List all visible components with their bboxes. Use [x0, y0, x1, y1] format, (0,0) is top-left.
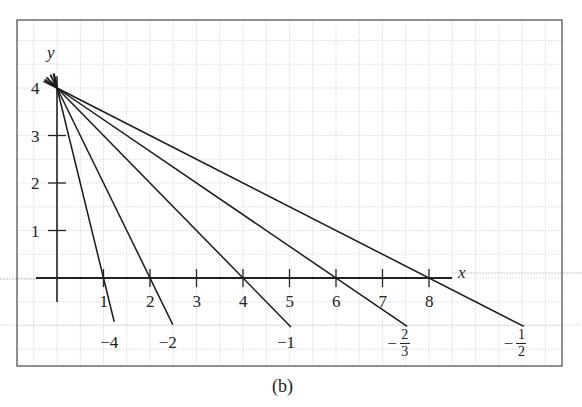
figure-caption: (b) [272, 376, 293, 397]
y-axis-label: y [47, 44, 55, 61]
y-tick-label: 2 [31, 175, 40, 192]
slope-label: −12 [504, 328, 527, 359]
denominator: 2 [518, 345, 525, 359]
line-family [44, 73, 524, 326]
minus-sign: − [387, 334, 397, 354]
y-tick-label: 3 [31, 128, 40, 145]
slope-label: −23 [387, 328, 410, 359]
slope-label: −4 [100, 334, 118, 351]
x-axis-label: x [458, 264, 466, 281]
minus-sign: − [504, 334, 514, 354]
x-tick-label: 5 [286, 293, 295, 310]
numerator: 1 [518, 328, 525, 342]
denominator: 3 [401, 345, 408, 359]
slope-label: −2 [159, 334, 177, 351]
fraction: 23 [400, 328, 410, 359]
x-tick-label: 2 [146, 293, 155, 310]
slope-label: −1 [277, 334, 295, 351]
x-tick-label: 6 [332, 293, 341, 310]
axes [36, 76, 452, 302]
line-slope-2-3 [57, 88, 407, 326]
line-slope-2 [57, 88, 173, 325]
y-tick-label: 4 [31, 80, 40, 97]
x-tick-label: 7 [379, 293, 388, 310]
fraction: 12 [516, 328, 526, 359]
x-tick-label: 1 [100, 293, 109, 310]
x-tick-label: 3 [193, 293, 202, 310]
x-tick-label: 4 [239, 293, 248, 310]
line-slope-1 [57, 88, 291, 327]
numerator: 2 [401, 328, 408, 342]
grid-lines [0, 20, 582, 366]
y-tick-label: 1 [31, 223, 40, 240]
x-tick-label: 8 [425, 293, 434, 310]
line-slope-4 [57, 88, 114, 322]
